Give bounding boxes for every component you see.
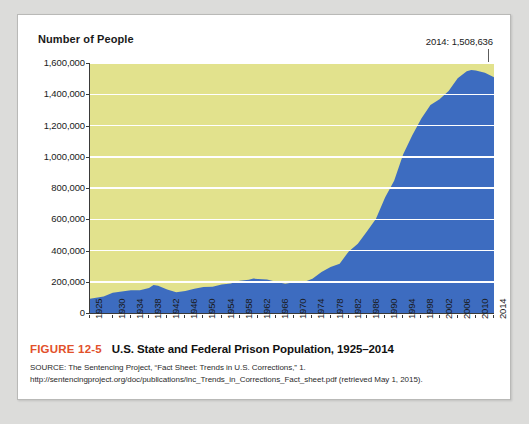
x-axis-tick-label: 1970 [297,299,308,319]
x-axis-tick-mark [239,315,240,318]
y-axis-tick-label: 1,200,000 [5,120,85,131]
x-axis-tick-mark [311,315,312,318]
y-axis-tick-label: 200,000 [5,276,85,287]
y-axis-tick-label: 0 [5,307,85,318]
source-note: SOURCE: The Sentencing Project, “Fact Sh… [30,362,492,385]
x-axis-tick-label: 2014 [497,299,508,319]
x-axis-tick-label: 1946 [188,299,199,319]
chart-container: Number of People 2014: 1,508,636 1,600,0… [18,15,512,335]
x-axis-tick-label: 2006 [461,299,472,319]
x-axis-tick-mark [130,315,131,318]
x-axis-tick-mark [493,315,494,318]
y-axis-tick-mark [86,188,90,189]
y-axis-title: Number of People [38,33,134,45]
y-axis-tick-label: 1,600,000 [5,57,85,68]
y-axis-tick-mark [86,94,90,95]
y-axis-tick-mark [86,63,90,64]
x-axis-tick-label: 1930 [116,299,127,319]
page-background: Number of People 2014: 1,508,636 1,600,0… [0,0,529,424]
gridline [90,281,494,283]
x-axis-tick-mark [457,315,458,318]
y-axis-tick-mark [86,157,90,158]
x-axis-tick-label: 1990 [388,299,399,319]
figure-card: Number of People 2014: 1,508,636 1,600,0… [17,14,511,400]
y-axis-tick-mark [86,282,90,283]
y-axis-tick-mark [86,126,90,127]
x-axis-tick-label: 1966 [279,299,290,319]
x-axis-tick-label: 1998 [424,299,435,319]
y-axis-tick-mark [86,313,90,314]
x-axis-tick-mark [202,315,203,318]
gridline [90,94,494,96]
y-axis-tick-label: 600,000 [5,213,85,224]
x-axis-tick-label: 1994 [406,299,417,319]
x-axis-tick-mark [475,315,476,318]
gridline [90,250,494,252]
x-axis-tick-mark [275,315,276,318]
gridline [90,219,494,221]
plot-area [89,63,494,314]
y-axis-tick-mark [86,219,90,220]
figure-number: FIGURE 12-5 [30,343,102,355]
x-axis-tick-mark [420,315,421,318]
x-axis-tick-mark [293,315,294,318]
x-axis-tick-mark [348,315,349,318]
x-axis-tick-label: 1934 [134,299,145,319]
x-axis-tick-label: 1962 [261,299,272,319]
x-axis-tick-label: 1978 [334,299,345,319]
x-axis-tick-mark [330,315,331,318]
x-axis-tick-mark [402,315,403,318]
figure-caption: FIGURE 12-5U.S. State and Federal Prison… [30,339,500,385]
annotation-leader-line [488,49,489,63]
x-axis-tick-label: 1954 [225,299,236,319]
x-axis-tick-mark [89,315,90,318]
x-axis-tick-mark [221,315,222,318]
x-axis-tick-mark [366,315,367,318]
x-axis-tick-label: 1958 [243,299,254,319]
x-axis-tick-mark [184,315,185,318]
gridline [90,156,494,158]
y-axis-tick-label: 1,000,000 [5,151,85,162]
y-axis-tick-label: 400,000 [5,245,85,256]
x-axis-tick-label: 1942 [170,299,181,319]
figure-heading-line: FIGURE 12-5U.S. State and Federal Prison… [30,339,500,357]
x-axis-tick-mark [148,315,149,318]
y-axis-tick-label: 1,400,000 [5,88,85,99]
x-axis-tick-label: 1982 [352,299,363,319]
peak-value-annotation: 2014: 1,508,636 [373,36,493,47]
x-axis-tick-mark [166,315,167,318]
x-axis-tick-label: 1925 [93,299,104,319]
x-axis-tick-mark [112,315,113,318]
gridline [90,62,494,64]
figure-title: U.S. State and Federal Prison Population… [112,343,394,355]
x-axis-tick-label: 2010 [479,299,490,319]
x-axis-tick-label: 1986 [370,299,381,319]
y-axis-tick-label: 800,000 [5,182,85,193]
x-axis-tick-label: 2002 [443,299,454,319]
x-axis-tick-label: 1974 [315,299,326,319]
gridline [90,125,494,127]
gridline [90,187,494,189]
x-axis-tick-mark [384,315,385,318]
x-axis-tick-mark [257,315,258,318]
x-axis-tick-mark [439,315,440,318]
y-axis-tick-mark [86,251,90,252]
x-axis-tick-label: 1938 [152,299,163,319]
x-axis-tick-label: 1950 [206,299,217,319]
